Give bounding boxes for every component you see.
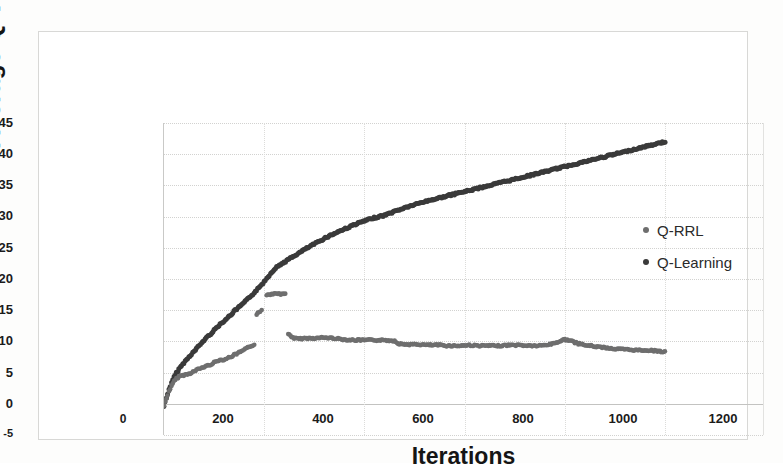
y-tick-label-10: 10	[0, 333, 13, 348]
y-tick-label-neg5: -5	[0, 427, 13, 439]
series-q-learning	[164, 139, 668, 409]
plot-area	[163, 123, 764, 435]
y-tick-label-5: 5	[0, 365, 13, 380]
y-tick-label-45: 45	[0, 115, 13, 130]
y-tick-label-20: 20	[0, 271, 13, 286]
series-plot-svg	[164, 123, 765, 435]
y-tick-label-40: 40	[0, 146, 13, 161]
y-tick-label-30: 30	[0, 208, 13, 223]
chart-legend: Q-RRL Q-Learning	[643, 214, 783, 278]
y-tick-label-15: 15	[0, 302, 13, 317]
x-tick-label-0: 0	[93, 412, 153, 426]
legend-marker-q-rrl-icon	[643, 227, 649, 233]
x-axis-label: Iterations	[163, 443, 764, 468]
legend-label-q-learning: Q-Learning	[657, 254, 732, 271]
gridline-neg5	[164, 435, 763, 436]
legend-marker-q-learning-icon	[643, 259, 649, 265]
y-tick-label-0: 0	[0, 396, 13, 411]
legend-label-q-rrl: Q-RRL	[657, 222, 704, 239]
legend-item-q-learning[interactable]: Q-Learning	[643, 246, 783, 278]
y-tick-label-25: 25	[0, 240, 13, 255]
legend-item-q-rrl[interactable]: Q-RRL	[643, 214, 783, 246]
y-tick-label-35: 35	[0, 177, 13, 192]
chart-frame: Average Q-value Iterations 45 40 35 30 2…	[38, 31, 748, 440]
